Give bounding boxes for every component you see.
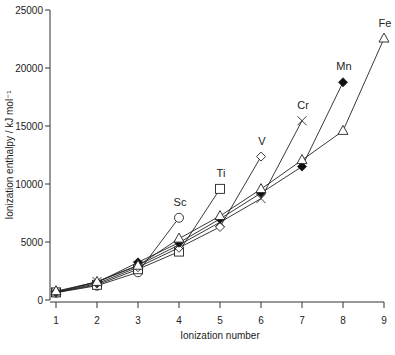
series-line	[56, 82, 343, 291]
series-line	[56, 39, 384, 292]
series-label: Cr	[297, 99, 309, 111]
x-tick-label: 4	[176, 315, 182, 326]
y-tick-label: 0	[37, 295, 43, 306]
series-line	[56, 218, 179, 293]
series-line	[56, 157, 261, 293]
series-ti: Ti	[52, 167, 226, 297]
series-fe: Fe	[51, 17, 391, 295]
series-label: Ti	[217, 167, 226, 179]
series-group: ScTiVCrMnFe	[51, 17, 391, 298]
square-marker	[216, 184, 225, 193]
triangle-marker	[174, 233, 184, 242]
triangle-marker	[338, 125, 348, 134]
y-tick-label: 10000	[15, 179, 43, 190]
y-axis-title: Ionization enthalpy / kJ mol⁻¹	[4, 90, 15, 220]
triangle-marker	[256, 184, 266, 193]
triangle-marker	[379, 33, 389, 42]
circle-marker	[175, 213, 184, 222]
diamond-marker	[257, 152, 266, 161]
x-tick-label: 2	[94, 315, 100, 326]
filled-diamond-marker	[339, 78, 348, 87]
cross-marker	[298, 116, 307, 125]
series-label: Mn	[336, 60, 351, 72]
y-tick-label: 5000	[21, 237, 44, 248]
x-tick-label: 6	[258, 315, 264, 326]
series-label: Fe	[379, 17, 392, 29]
x-tick-label: 8	[340, 315, 346, 326]
triangle-marker	[215, 211, 225, 220]
x-tick-label: 1	[53, 315, 59, 326]
y-tick-label: 20000	[15, 63, 43, 74]
axes: 0500010000150002000025000123456789	[15, 5, 387, 327]
x-tick-label: 9	[381, 315, 387, 326]
x-tick-label: 3	[135, 315, 141, 326]
ionization-enthalpy-chart: 0500010000150002000025000123456789 ScTiV…	[0, 0, 395, 355]
series-mn: Mn	[52, 60, 352, 296]
y-tick-label: 25000	[15, 5, 43, 16]
x-tick-label: 7	[299, 315, 305, 326]
x-tick-label: 5	[217, 315, 223, 326]
x-axis-title: Ionization number	[180, 330, 260, 341]
series-label: Sc	[174, 196, 187, 208]
y-tick-label: 15000	[15, 121, 43, 132]
series-label: V	[258, 135, 266, 147]
series-v: V	[52, 135, 267, 297]
